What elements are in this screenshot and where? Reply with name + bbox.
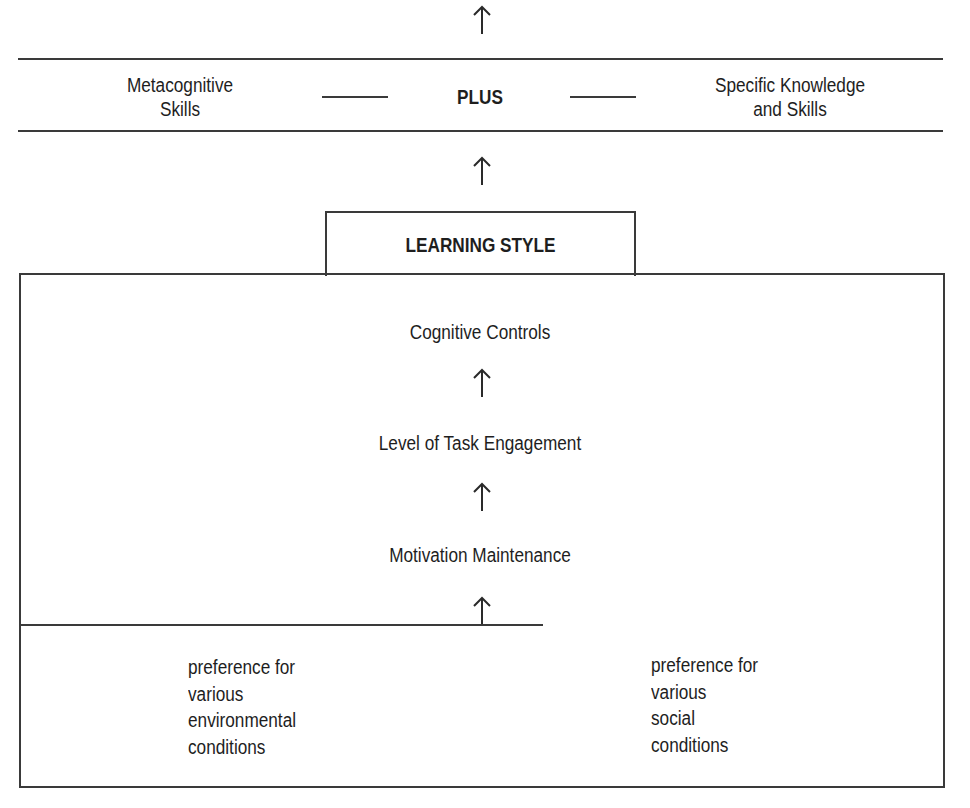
- metacognitive-skills-label: Metacognitive Skills: [107, 73, 253, 121]
- social-preference: preference for various social conditions: [651, 652, 823, 758]
- metacognitive-line-1: Metacognitive: [107, 73, 253, 97]
- up-arrow-icon: [472, 596, 492, 626]
- learning-style-title: LEARNING STYLE: [347, 233, 614, 257]
- env-line-1: preference for: [188, 654, 360, 681]
- task-engagement-label: Level of Task Engagement: [351, 431, 609, 455]
- up-arrow-icon: [472, 368, 492, 398]
- dash-left: [322, 96, 388, 98]
- specific-knowledge-line-2: and Skills: [695, 97, 884, 121]
- up-arrow-icon: [472, 482, 492, 512]
- social-line-3: social: [651, 705, 823, 732]
- social-line-4: conditions: [651, 732, 823, 759]
- env-line-2: various: [188, 681, 360, 708]
- social-line-2: various: [651, 679, 823, 706]
- env-line-3: environmental: [188, 707, 360, 734]
- metacognitive-line-2: Skills: [107, 97, 253, 121]
- up-arrow-icon: [472, 156, 492, 186]
- dash-right: [570, 96, 636, 98]
- env-line-4: conditions: [188, 734, 360, 761]
- social-line-1: preference for: [651, 652, 823, 679]
- cognitive-controls-label: Cognitive Controls: [351, 320, 609, 344]
- band-bottom-rule: [18, 130, 943, 132]
- environmental-preference: preference for various environmental con…: [188, 654, 360, 760]
- motivation-maintenance-label: Motivation Maintenance: [351, 543, 609, 567]
- specific-knowledge-line-1: Specific Knowledge: [695, 73, 884, 97]
- preferences-divider: [21, 624, 543, 626]
- up-arrow-icon: [472, 5, 492, 35]
- specific-knowledge-label: Specific Knowledge and Skills: [695, 73, 884, 121]
- band-top-rule: [18, 58, 943, 60]
- plus-label: PLUS: [437, 85, 523, 109]
